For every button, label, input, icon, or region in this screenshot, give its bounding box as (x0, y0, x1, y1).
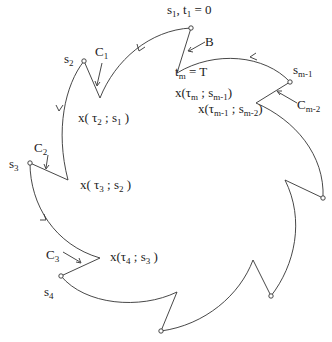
label-C3: C3 (46, 248, 59, 264)
label-C2: C2 (34, 141, 47, 157)
arc-s4-to-tip5 (61, 276, 177, 303)
label-s1-t1: s1, t1 = 0 (167, 3, 212, 19)
label-x-tau-m: x(τm ; sm-1) (175, 86, 232, 102)
jump-s7 (285, 180, 323, 198)
node-s5 (159, 329, 163, 333)
pointer-Cm2 (278, 92, 297, 103)
arc-s5-to-tip6 (161, 260, 253, 331)
node-s7 (321, 196, 325, 200)
label-s-m-1: sm-1 (293, 63, 313, 79)
pointer-B (189, 42, 205, 51)
node-s1 (189, 26, 193, 30)
arc-s6-to-tip7 (271, 180, 296, 296)
label-x-tau-4: x(τ4 ; s3 ) (110, 250, 158, 266)
label-C-m-2: Cm-2 (297, 98, 320, 114)
node-s6 (269, 294, 273, 298)
label-x-tau-m-1: x(τm-1 ; sm-2) (198, 102, 263, 118)
pointer-C3 (63, 252, 80, 262)
direction-arrow-icon (56, 105, 63, 111)
direction-arrow-icon (250, 53, 257, 60)
direction-arrow-icon (40, 214, 46, 220)
jump-sm1-Cm2 (256, 82, 290, 103)
arc-s7-to-cm2 (256, 103, 323, 198)
label-s4: s4 (44, 285, 54, 301)
node-s4 (59, 274, 63, 278)
jump-s6 (253, 260, 271, 296)
node-s3 (28, 161, 32, 165)
label-x-tau-2: x( τ2 ; s1 ) (78, 111, 129, 127)
label-s3: s3 (9, 157, 19, 173)
pointer-C1 (97, 63, 102, 85)
label-s2: s2 (64, 52, 74, 68)
label-x-tau-3: x( τ3 ; s2 ) (80, 178, 131, 194)
node-sm1 (288, 80, 292, 84)
node-s2 (82, 59, 86, 63)
label-C1: C1 (95, 45, 108, 61)
jump-s2-C1 (84, 61, 100, 98)
label-B: B (205, 35, 214, 48)
label-tm-T: tm = T (175, 65, 207, 81)
